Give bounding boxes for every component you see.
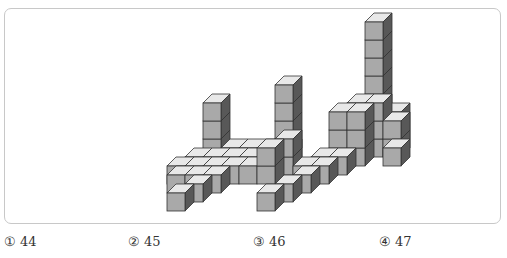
choice-marker: ③ bbox=[253, 234, 265, 249]
choice-marker: ④ bbox=[379, 234, 391, 249]
choice-2[interactable]: ②45 bbox=[128, 234, 161, 249]
cube bbox=[257, 184, 284, 211]
choice-3[interactable]: ③46 bbox=[253, 234, 286, 249]
choice-marker: ① bbox=[4, 234, 16, 249]
choice-1[interactable]: ①44 bbox=[4, 234, 37, 249]
choice-value: 47 bbox=[395, 234, 412, 249]
choice-value: 45 bbox=[144, 234, 161, 249]
cube-stack-figure bbox=[0, 0, 507, 230]
choice-4[interactable]: ④47 bbox=[379, 234, 412, 249]
answer-choices: ①44 ②45 ③46 ④47 bbox=[0, 234, 507, 254]
choice-value: 46 bbox=[269, 234, 286, 249]
choice-marker: ② bbox=[128, 234, 140, 249]
choice-value: 44 bbox=[20, 234, 37, 249]
